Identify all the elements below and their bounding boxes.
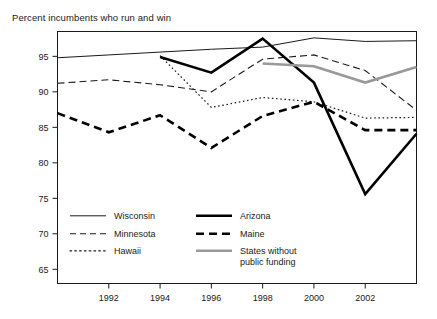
line-chart-svg: 65707580859095 199219941996199820002002 … (0, 0, 437, 319)
x-axis-tick-label: 2000 (304, 293, 324, 303)
y-axis-tick-label: 65 (38, 265, 48, 275)
y-axis-tick-label: 80 (38, 158, 48, 168)
legend-label: Wisconsin (114, 211, 155, 221)
series-line-states-without-public-funding (263, 63, 417, 82)
x-axis-tick-label: 1996 (201, 293, 221, 303)
y-axis-tick-label: 95 (38, 52, 48, 62)
plot-frame (58, 32, 417, 284)
y-axis-tick-label: 75 (38, 194, 48, 204)
x-axis-tick-label: 1992 (99, 293, 119, 303)
x-axis-tick-label: 1998 (253, 293, 273, 303)
legend-label: Arizona (240, 211, 271, 221)
y-axis-tick-label: 70 (38, 229, 48, 239)
series-line-maine (58, 102, 417, 148)
legend-label: States without (240, 246, 297, 256)
y-axis-tick-label: 85 (38, 123, 48, 133)
legend-label: Maine (240, 229, 265, 239)
chart-figure: Percent incumbents who run and win 65707… (0, 0, 437, 319)
chart-legend: WisconsinMinnesotaHawaiiArizonaMaineStat… (70, 211, 297, 267)
legend-label: Minnesota (114, 229, 156, 239)
legend-label: Hawaii (114, 246, 141, 256)
y-axis-tick-group: 65707580859095 (38, 52, 57, 275)
y-axis-tick-label: 90 (38, 87, 48, 97)
series-line-arizona (160, 39, 416, 194)
x-axis-tick-group: 199219941996199820002002 (99, 284, 375, 303)
x-axis-tick-label: 1994 (150, 293, 170, 303)
x-axis-tick-label: 2002 (355, 293, 375, 303)
series-group (58, 38, 417, 194)
legend-label-line2: public funding (240, 257, 296, 267)
